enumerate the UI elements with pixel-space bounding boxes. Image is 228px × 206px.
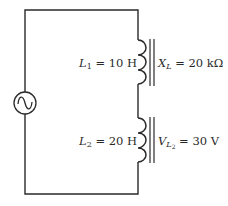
iron-core-l2-icon: [150, 117, 154, 163]
xl-annotation: XL = 20 kΩ: [158, 58, 223, 71]
l1-var: L: [79, 56, 87, 70]
bottom-wire: [25, 114, 138, 194]
l1-label: L1 = 10 H: [79, 58, 137, 71]
vl2-value: = 30 V: [175, 134, 219, 148]
circuit-diagram: [0, 0, 228, 206]
l2-value: = 20 H: [92, 134, 137, 148]
ac-source-icon: [14, 92, 36, 114]
iron-core-l1-icon: [150, 39, 154, 86]
l2-var: L: [79, 134, 87, 148]
xl-value: = 20 kΩ: [172, 56, 224, 70]
l2-label: L2 = 20 H: [79, 136, 137, 149]
inductor-l1-icon: [138, 40, 146, 84]
top-wire: [25, 10, 138, 92]
inductor-l2-icon: [138, 118, 146, 162]
vl2-annotation: VL2 = 30 V: [158, 136, 219, 150]
l1-value: = 10 H: [92, 56, 137, 70]
xl-var: X: [158, 56, 166, 70]
